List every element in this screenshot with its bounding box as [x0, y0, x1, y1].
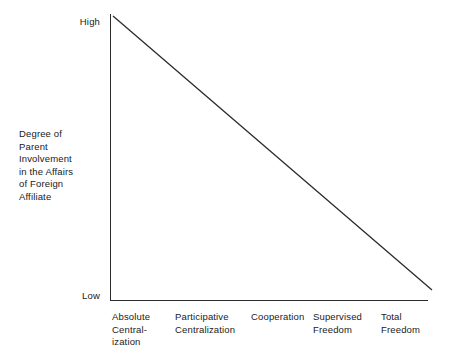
y-axis-title-line-6: Affiliate: [19, 191, 105, 204]
x-tick-label-supervised-freedom: Supervised Freedom: [313, 311, 362, 336]
x-tick-label-4-line-1: Total: [381, 311, 420, 324]
x-tick-label-4-line-2: Freedom: [381, 324, 420, 337]
y-axis-title-line-3: Involvement: [19, 153, 105, 166]
x-tick-label-participative-centralization: Participative Centralization: [175, 311, 235, 336]
x-tick-label-2-line-1: Cooperation: [251, 311, 304, 324]
x-tick-label-total-freedom: Total Freedom: [381, 311, 420, 336]
x-tick-label-0-line-3: ization: [112, 336, 150, 349]
series-line-degree-of-parent-involvement: [113, 16, 432, 290]
x-tick-label-cooperation: Cooperation: [251, 311, 304, 324]
x-tick-label-0-line-2: Central-: [112, 324, 150, 337]
x-tick-label-0-line-1: Absolute: [112, 311, 150, 324]
y-axis-title-line-5: of Foreign: [19, 178, 105, 191]
chart-figure: High Low Degree of Parent Involvement in…: [0, 0, 451, 363]
x-tick-label-3-line-2: Freedom: [313, 324, 362, 337]
x-tick-label-absolute-centralization: Absolute Central- ization: [112, 311, 150, 349]
y-axis-title-line-2: Parent: [19, 141, 105, 154]
y-axis-title-line-4: in the Affairs: [19, 166, 105, 179]
y-axis-title: Degree of Parent Involvement in the Affa…: [19, 128, 105, 204]
x-tick-label-3-line-1: Supervised: [313, 311, 362, 324]
y-tick-label-low: Low: [40, 290, 100, 301]
x-tick-label-1-line-1: Participative: [175, 311, 235, 324]
y-tick-label-high: High: [40, 16, 100, 27]
y-axis-title-line-1: Degree of: [19, 128, 105, 141]
x-tick-label-1-line-2: Centralization: [175, 324, 235, 337]
